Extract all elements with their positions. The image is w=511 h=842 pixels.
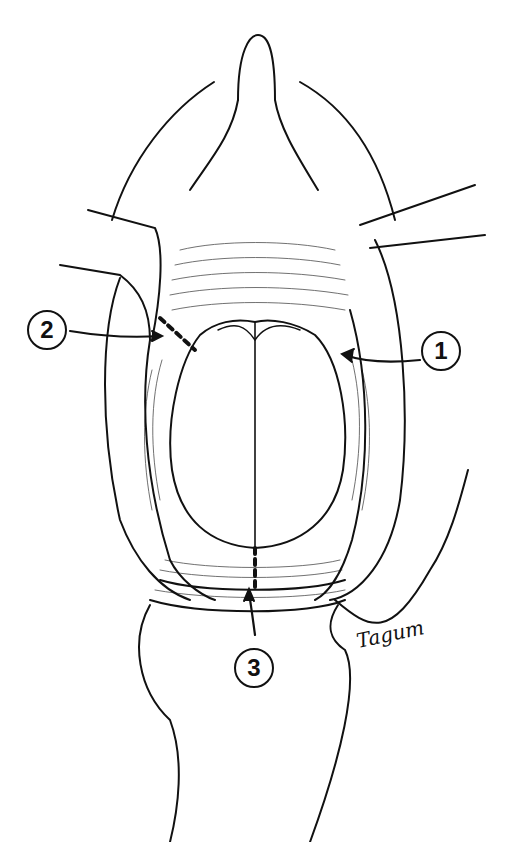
incision-2 <box>160 318 195 350</box>
arrow-1 <box>345 355 420 362</box>
outer-fold-left <box>112 82 214 220</box>
central-dome <box>170 321 345 548</box>
callout-2: 2 <box>27 310 67 350</box>
arrow-2 <box>70 331 160 337</box>
callout-3: 3 <box>234 648 274 688</box>
callout-1: 1 <box>421 331 461 371</box>
lower-stalk <box>139 605 179 842</box>
illustration <box>0 0 511 842</box>
top-tubule <box>238 35 318 190</box>
